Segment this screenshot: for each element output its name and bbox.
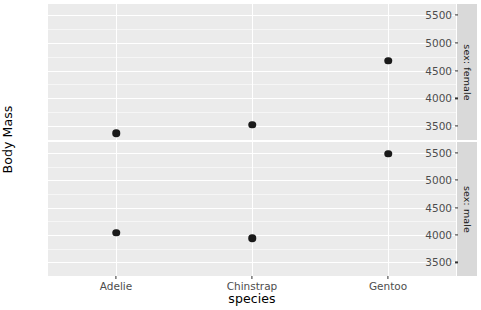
y-tick-label: 4000 xyxy=(425,92,452,104)
y-tick-mark xyxy=(455,207,458,208)
data-point xyxy=(248,235,256,243)
facet-strip-male: sex: male xyxy=(457,142,477,276)
panel-male xyxy=(48,142,456,276)
gridline-major-vertical xyxy=(116,142,117,276)
data-point xyxy=(384,57,392,65)
y-tick-label: 5500 xyxy=(425,9,452,21)
data-point xyxy=(112,130,120,138)
y-tick-label: 4500 xyxy=(425,65,452,77)
facet-strip-label-female: sex: female xyxy=(462,44,473,100)
y-tick-mark xyxy=(455,180,458,181)
gridline-major-vertical xyxy=(116,4,117,140)
y-tick-label: 5000 xyxy=(425,37,452,49)
gridline-major-vertical xyxy=(388,4,389,140)
facet-row-female: sex: female 35004000450050005500 xyxy=(0,4,481,140)
y-tick-label: 3500 xyxy=(425,120,452,132)
data-point xyxy=(248,121,256,129)
x-axis: AdelieChinstrapGentoo xyxy=(48,276,456,292)
y-tick-label: 5000 xyxy=(425,174,452,186)
gridline-major-vertical xyxy=(388,142,389,276)
y-tick-mark xyxy=(455,98,458,99)
facet-strip-label-male: sex: male xyxy=(462,186,473,233)
facet-row-male: sex: male 35004000450050005500 xyxy=(0,142,481,276)
x-axis-title-text: species xyxy=(228,291,275,306)
y-tick-mark xyxy=(455,126,458,127)
y-tick-mark xyxy=(455,262,458,263)
y-tick-mark xyxy=(455,234,458,235)
y-tick-mark xyxy=(455,42,458,43)
chart-plot-area: Body Mass sex: female 350040004500500055… xyxy=(0,0,481,310)
data-point xyxy=(112,229,120,237)
gridline-major-vertical xyxy=(252,142,253,276)
x-tick-mark xyxy=(251,276,252,279)
y-tick-mark xyxy=(455,152,458,153)
panel-female xyxy=(48,4,456,140)
x-tick-mark xyxy=(115,276,116,279)
y-tick-mark xyxy=(455,70,458,71)
gridline-major-vertical xyxy=(252,4,253,140)
y-tick-label: 5500 xyxy=(425,147,452,159)
y-tick-label: 4500 xyxy=(425,202,452,214)
y-tick-label: 4000 xyxy=(425,229,452,241)
facet-strip-female: sex: female xyxy=(457,4,477,140)
y-tick-label: 3500 xyxy=(425,256,452,268)
data-point xyxy=(384,150,392,158)
x-tick-mark xyxy=(387,276,388,279)
x-axis-title: species xyxy=(48,291,456,306)
y-tick-mark xyxy=(455,15,458,16)
